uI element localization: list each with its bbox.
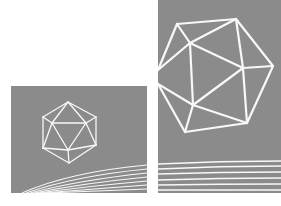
illustration — [0, 0, 281, 206]
small-gray-panel — [11, 86, 147, 193]
large-gray-panel — [158, 0, 281, 193]
